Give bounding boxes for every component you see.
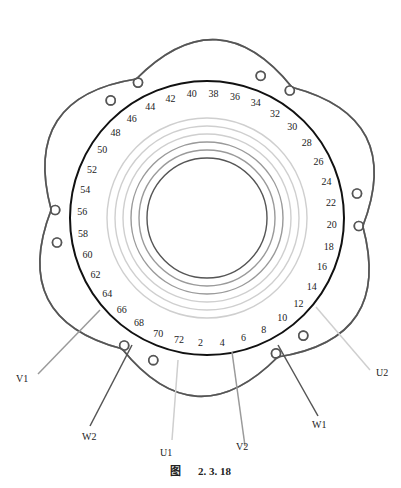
figure-caption: 图 2. 3. 18: [0, 462, 401, 478]
slot-label-28: 28: [302, 137, 312, 148]
slot-labels: 2468101214161820222426283032343638404244…: [77, 88, 337, 349]
coil-end-terminal: [256, 71, 265, 80]
slot-label-20: 20: [327, 219, 337, 230]
lead-w2: [90, 345, 132, 426]
lead-w1: [278, 345, 318, 416]
slot-label-32: 32: [270, 108, 280, 119]
slot-label-12: 12: [293, 298, 303, 309]
slot-label-30: 30: [287, 121, 297, 132]
connection-rings: [107, 118, 307, 318]
caption-number: 2. 3. 18: [198, 465, 231, 477]
slot-label-24: 24: [322, 176, 332, 187]
slot-label-42: 42: [166, 93, 176, 104]
slot-label-54: 54: [80, 184, 90, 195]
terminal-label-v2: V2: [236, 441, 248, 452]
slot-label-8: 8: [261, 324, 266, 335]
terminal-label-u1: U1: [160, 447, 172, 458]
slot-label-2: 2: [198, 337, 203, 348]
slot-label-44: 44: [145, 101, 155, 112]
slot-label-6: 6: [241, 332, 246, 343]
slot-label-52: 52: [87, 164, 97, 175]
slot-label-14: 14: [307, 281, 317, 292]
lead-v1: [38, 310, 100, 374]
terminal-leads: V1W2U1V2W1U2: [16, 307, 388, 458]
slot-label-50: 50: [97, 144, 107, 155]
slot-label-70: 70: [153, 328, 163, 339]
slot-label-18: 18: [324, 241, 334, 252]
winding-diagram: 2468101214161820222426283032343638404244…: [0, 0, 401, 460]
slot-label-66: 66: [117, 304, 127, 315]
coil-jumper: [136, 40, 292, 88]
lead-v2: [232, 352, 245, 446]
slot-label-22: 22: [326, 197, 336, 208]
connection-ring: [123, 134, 291, 302]
slot-label-60: 60: [83, 249, 93, 260]
slot-label-46: 46: [127, 113, 137, 124]
connection-ring: [107, 118, 307, 318]
stator-ring: [70, 81, 344, 355]
terminal-label-w2: W2: [82, 431, 96, 442]
slot-label-64: 64: [102, 288, 112, 299]
slot-label-16: 16: [317, 261, 327, 272]
connection-ring: [147, 158, 267, 278]
coil-end-terminal: [299, 331, 308, 340]
lead-u1: [172, 360, 178, 440]
slot-label-68: 68: [134, 317, 144, 328]
slot-label-26: 26: [313, 156, 323, 167]
coil-end-terminal: [106, 96, 115, 105]
coil-end-terminal: [354, 222, 363, 231]
terminal-label-u2: U2: [376, 367, 388, 378]
slot-label-58: 58: [78, 228, 88, 239]
slot-label-36: 36: [230, 91, 240, 102]
slot-label-10: 10: [277, 312, 287, 323]
connection-ring: [131, 142, 283, 294]
coil-end-terminal: [53, 238, 62, 247]
terminal-label-v1: V1: [16, 373, 28, 384]
caption-prefix: 图: [170, 462, 181, 478]
slot-label-56: 56: [77, 206, 87, 217]
slot-label-40: 40: [187, 88, 197, 99]
slot-label-72: 72: [174, 334, 184, 345]
lead-u2: [316, 307, 370, 370]
slot-label-48: 48: [111, 127, 121, 138]
connection-ring: [115, 126, 299, 310]
phase-w-coils: [40, 40, 374, 397]
slot-label-62: 62: [91, 269, 101, 280]
coil-end-terminal: [353, 189, 362, 198]
slot-label-34: 34: [251, 97, 261, 108]
coil-end-terminal: [51, 206, 60, 215]
coil-end-terminal: [149, 356, 158, 365]
coil-jumper: [122, 349, 278, 397]
terminal-label-w1: W1: [312, 419, 326, 430]
slot-label-4: 4: [220, 337, 225, 348]
connection-ring: [139, 150, 275, 286]
slot-label-38: 38: [209, 88, 219, 99]
